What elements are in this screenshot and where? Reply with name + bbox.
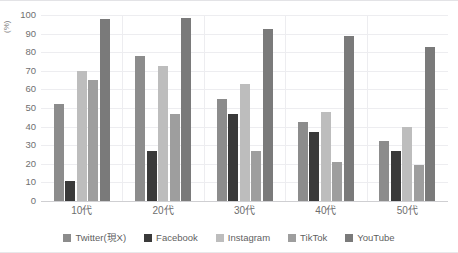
x-axis-category-label: 40代 (285, 203, 366, 219)
x-axis-category-label: 50代 (367, 203, 448, 219)
plot-area: (%) 0102030405060708090100 (0, 15, 458, 201)
bar[interactable] (402, 127, 412, 201)
bar[interactable] (158, 66, 168, 201)
bar[interactable] (77, 71, 87, 201)
bar[interactable] (344, 36, 354, 201)
bar[interactable] (54, 104, 64, 201)
grid-area (41, 15, 448, 202)
bar[interactable] (298, 122, 308, 201)
bar[interactable] (309, 132, 319, 201)
bar-group (204, 15, 285, 201)
bar[interactable] (332, 162, 342, 201)
bar-group (122, 15, 203, 201)
legend-item[interactable]: Instagram (216, 233, 270, 243)
chart-legend: Twitter(現X)FacebookInstagramTikTokYouTub… (0, 229, 458, 247)
y-axis-tick-label: 60 (25, 85, 36, 95)
y-axis-tick-label: 20 (25, 159, 36, 169)
bar[interactable] (379, 141, 389, 201)
legend-item[interactable]: TikTok (288, 233, 327, 243)
y-axis-tick-label: 10 (25, 178, 36, 188)
legend-swatch-twitter (63, 234, 71, 242)
bars-layer (41, 15, 448, 201)
bar-chart: (%) 0102030405060708090100 10代20代30代40代5… (0, 0, 458, 253)
x-axis: 10代20代30代40代50代 (41, 203, 448, 219)
y-axis-tick-label: 80 (25, 47, 36, 57)
bar[interactable] (414, 165, 424, 201)
bar[interactable] (240, 84, 250, 201)
bar[interactable] (147, 151, 157, 201)
legend-item-label: Facebook (156, 233, 198, 243)
bar[interactable] (391, 151, 401, 201)
y-axis-tick-label: 40 (25, 122, 36, 132)
legend-item[interactable]: Twitter(現X) (63, 233, 126, 243)
legend-item-label: TikTok (300, 233, 327, 243)
legend-item-label: YouTube (357, 233, 394, 243)
bar[interactable] (217, 99, 227, 201)
legend-swatch-instagram (216, 234, 224, 242)
legend-item[interactable]: Facebook (144, 233, 198, 243)
bar[interactable] (88, 80, 98, 201)
legend-swatch-youtube (345, 234, 353, 242)
bar[interactable] (251, 151, 261, 201)
bar[interactable] (228, 114, 238, 201)
bar[interactable] (170, 114, 180, 201)
y-axis-tick-label: 100 (20, 10, 36, 20)
bar[interactable] (425, 47, 435, 201)
bar[interactable] (181, 18, 191, 201)
legend-swatch-tiktok (288, 234, 296, 242)
x-axis-category-label: 30代 (204, 203, 285, 219)
bar-group (367, 15, 448, 201)
y-axis-tick-label: 0 (31, 196, 36, 206)
bar[interactable] (321, 112, 331, 201)
x-axis-category-label: 10代 (41, 203, 122, 219)
legend-item[interactable]: YouTube (345, 233, 394, 243)
y-axis-tick-label: 70 (25, 66, 36, 76)
bar[interactable] (263, 29, 273, 201)
y-axis-tick-label: 30 (25, 140, 36, 150)
gridline (41, 201, 448, 202)
legend-item-label: Instagram (228, 233, 270, 243)
legend-item-label: Twitter(現X) (75, 233, 126, 243)
bar[interactable] (65, 181, 75, 201)
bar[interactable] (135, 56, 145, 201)
bar-group (285, 15, 366, 201)
bar-group (41, 15, 122, 201)
bar[interactable] (100, 19, 110, 201)
y-axis-tick-label: 90 (25, 29, 36, 39)
x-axis-category-label: 20代 (122, 203, 203, 219)
y-axis: 0102030405060708090100 (0, 15, 40, 201)
legend-swatch-facebook (144, 234, 152, 242)
y-axis-tick-label: 50 (25, 103, 36, 113)
